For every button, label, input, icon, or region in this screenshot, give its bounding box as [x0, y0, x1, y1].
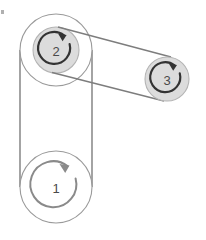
pulley-2[interactable]: 2 — [20, 14, 92, 86]
pulley-3-label: 3 — [163, 73, 170, 88]
pulley-diagram-canvas: 1 2 3 — [0, 0, 206, 240]
speck-artifact-icon — [1, 10, 4, 14]
pulley-1-label: 1 — [52, 181, 59, 196]
pulley-diagram: 1 2 3 — [0, 0, 206, 240]
pulley-2-label: 2 — [52, 44, 59, 59]
pulley-1[interactable]: 1 — [20, 151, 92, 223]
pulley-3[interactable]: 3 — [145, 57, 189, 101]
